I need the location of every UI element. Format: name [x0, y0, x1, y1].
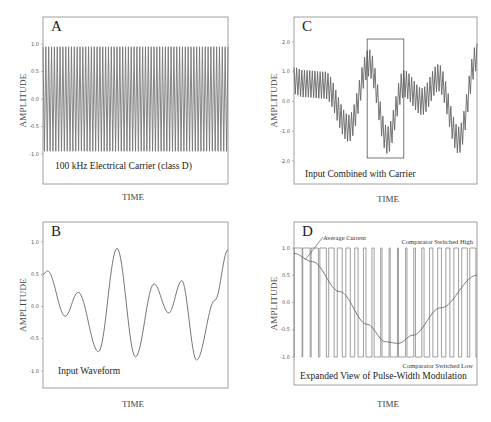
panel-a-ytick-label: 1.0 — [31, 41, 39, 47]
panel-a-caption: 100 kHz Electrical Carrier (class D) — [55, 161, 192, 172]
panel-c-letter: C — [302, 18, 312, 34]
panel-c-ytick-label: -1.0 — [280, 128, 290, 134]
panel-a-ytick-label: 0.0 — [31, 96, 39, 102]
panel-b-ytick-label: 0.0 — [31, 303, 39, 309]
panel-c-ytick-label: 0.0 — [282, 98, 290, 104]
panel-c-frame — [294, 17, 477, 184]
panel-c-ytick-label: 1.0 — [282, 68, 290, 74]
panel-b-ytick-label: -1.0 — [29, 368, 39, 374]
panel-b-frame — [43, 222, 228, 388]
panel-a-ytick-label: -1.0 — [29, 151, 39, 157]
figure-canvas: 1.00.50.0-0.5-1.0AMPLITUDETIMEA100 kHz E… — [0, 0, 491, 422]
panel-d-letter: D — [302, 223, 313, 239]
panel-c-series-combined — [294, 43, 477, 153]
panel-c-ytick-label: -2.0 — [280, 158, 290, 164]
panel-d-annotation-arrow — [305, 237, 323, 260]
panel-d-ytick-label: -0.5 — [280, 326, 290, 332]
panel-b-letter: B — [51, 223, 61, 239]
panel-a-ylabel: AMPLITUDE — [18, 73, 28, 127]
panel-b-ytick-label: 1.0 — [31, 239, 39, 245]
panel-d-ytick-label: 0.5 — [282, 272, 290, 278]
panel-d-series-pwm — [294, 248, 477, 357]
panel-d-annotation-average-current: Average Current — [323, 234, 366, 241]
panel-d-ytick-label: -1.0 — [280, 354, 290, 360]
panel-d-caption: Expanded View of Pulse-Width Modulation — [300, 371, 467, 381]
panel-d-annotation-high: Comparator Switched High — [402, 238, 474, 245]
panel-b-series-input — [43, 248, 228, 360]
panel-c-ylabel: AMPLITUDE — [269, 73, 279, 127]
panel-a-ytick-label: 0.5 — [31, 68, 39, 74]
panel-a-xlabel: TIME — [122, 192, 144, 202]
panel-b-ytick-label: -0.5 — [29, 335, 39, 341]
panel-b-ytick-label: 0.5 — [31, 271, 39, 277]
panel-c-xlabel: TIME — [377, 194, 399, 204]
panel-d-ytick-label: 0.0 — [282, 299, 290, 305]
panel-d-ytick-label: 1.0 — [282, 245, 290, 251]
panel-d-annotation-low: Comparator Switched Low — [403, 362, 474, 369]
panel-b-caption: Input Waveform — [58, 366, 121, 376]
panel-c-caption: Input Combined with Carrier — [305, 169, 416, 179]
panel-d-ylabel: AMPLITUDE — [269, 276, 279, 330]
panel-d-xlabel: TIME — [377, 399, 399, 409]
panel-c-ytick-label: 2.0 — [282, 39, 290, 45]
panel-b-xlabel: TIME — [122, 399, 144, 409]
panel-a-ytick-label: -0.5 — [29, 123, 39, 129]
panel-a-letter: A — [51, 18, 62, 34]
panel-b-ylabel: AMPLITUDE — [18, 278, 28, 332]
panel-a-series-carrier — [43, 47, 228, 152]
